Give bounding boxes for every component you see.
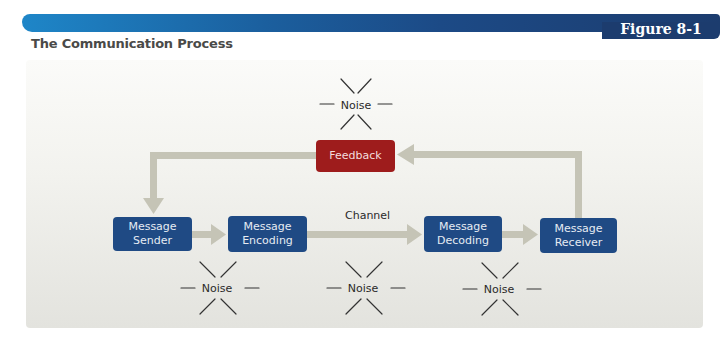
- node-label-line2: Sender: [133, 234, 172, 248]
- decoding-to-receiver-line: [502, 231, 526, 238]
- noise-label: Noise: [454, 283, 544, 296]
- node-message-sender: Message Sender: [113, 217, 192, 251]
- arrowhead-to-encoding: [211, 224, 226, 245]
- node-message-decoding: Message Decoding: [424, 216, 502, 252]
- noise-label: Noise: [318, 282, 408, 295]
- channel-label: Channel: [345, 209, 390, 222]
- node-label-line1: Message: [554, 222, 602, 236]
- node-label-line2: Receiver: [555, 236, 603, 250]
- node-label-line1: Message: [128, 220, 176, 234]
- noise-burst-channel: Noise: [322, 260, 412, 320]
- node-label-line1: Message: [439, 220, 487, 234]
- sender-to-encoding-line: [192, 231, 214, 238]
- arrowhead-to-receiver: [523, 224, 538, 245]
- node-label-line2: Decoding: [437, 234, 489, 248]
- node-message-encoding: Message Encoding: [228, 216, 307, 252]
- arrowhead-left-to-feedback: [397, 144, 414, 165]
- arrowhead-down-to-sender: [143, 198, 164, 214]
- node-label-line1: Message: [243, 220, 291, 234]
- node-label: Feedback: [329, 149, 381, 163]
- node-message-receiver: Message Receiver: [540, 218, 617, 253]
- noise-burst-top: Noise: [311, 77, 401, 137]
- noise-burst-decoding-receiver: Noise: [458, 261, 548, 321]
- noise-burst-sender-encoding: Noise: [176, 260, 266, 320]
- feedback-to-sender-line-horizontal: [150, 152, 316, 159]
- node-feedback: Feedback: [316, 140, 395, 172]
- feedback-to-sender-line-vertical: [150, 152, 157, 200]
- noise-label: Noise: [172, 282, 262, 295]
- channel-line: [307, 231, 411, 238]
- receiver-to-feedback-line-horizontal: [412, 151, 582, 158]
- noise-label: Noise: [311, 99, 401, 112]
- node-label-line2: Encoding: [242, 234, 293, 248]
- arrowhead-to-decoding: [407, 224, 422, 245]
- receiver-to-feedback-line-vertical: [575, 151, 582, 218]
